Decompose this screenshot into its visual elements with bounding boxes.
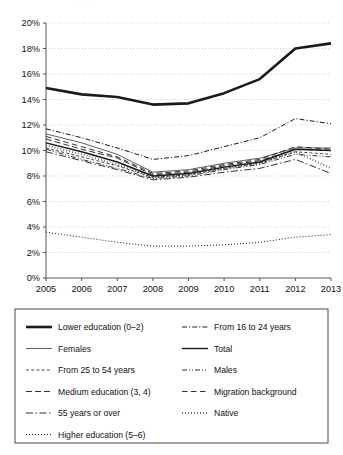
- series-line: [46, 232, 331, 246]
- chart-svg: · · · · · 0%2%4%6%8%10%12%14%16%18%20% 2…: [0, 0, 343, 455]
- legend-entries: Lower education (0–2)FemalesFrom 25 to 5…: [26, 322, 297, 440]
- x-axis-tick-labels: 200520062007200820092010201120122013: [36, 284, 341, 294]
- unemployment-rate-line-chart: · · · · · 0%2%4%6%8%10%12%14%16%18%20% 2…: [0, 0, 343, 455]
- x-tick-label: 2013: [321, 284, 341, 294]
- y-gridlines: [46, 23, 331, 253]
- x-tick-label: 2010: [214, 284, 234, 294]
- y-tick-label: 8%: [27, 171, 40, 181]
- x-tick-label: 2007: [107, 284, 127, 294]
- y-tick-label: 12%: [22, 120, 40, 130]
- legend-label: Medium education (3, 4): [58, 387, 151, 397]
- legend-label: Lower education (0–2): [58, 322, 144, 332]
- x-tick-label: 2009: [178, 284, 198, 294]
- y-tick-label: 0%: [27, 273, 40, 283]
- y-tick-label: 14%: [22, 95, 40, 105]
- y-tick-label: 2%: [27, 248, 40, 258]
- cropped-title-fragment: · · · · ·: [74, 0, 96, 9]
- y-tick-label: 16%: [22, 69, 40, 79]
- legend-label: From 25 to 54 years: [58, 365, 135, 375]
- x-tick-label: 2005: [36, 284, 56, 294]
- y-tick-label: 4%: [27, 222, 40, 232]
- y-tick-label: 18%: [22, 44, 40, 54]
- legend-label: Higher education (5–6): [58, 430, 146, 440]
- legend-label: Males: [214, 365, 237, 375]
- y-tick-label: 6%: [27, 197, 40, 207]
- y-tick-label: 10%: [22, 146, 40, 156]
- y-axis-tick-labels: 0%2%4%6%8%10%12%14%16%18%20%: [22, 18, 40, 283]
- legend-label: Migration background: [214, 387, 297, 397]
- cropped-top-text-row: · · · · ·: [74, 0, 96, 9]
- x-tick-label: 2012: [285, 284, 305, 294]
- x-tick-label: 2008: [143, 284, 163, 294]
- legend-label: Total: [214, 344, 232, 354]
- x-tick-label: 2006: [71, 284, 91, 294]
- legend-label: Native: [214, 408, 239, 418]
- legend-label: 55 years or over: [58, 408, 120, 418]
- legend-label: From 16 to 24 years: [214, 322, 291, 332]
- legend-label: Females: [58, 344, 91, 354]
- x-tick-label: 2011: [250, 284, 270, 294]
- y-tick-label: 20%: [22, 18, 40, 28]
